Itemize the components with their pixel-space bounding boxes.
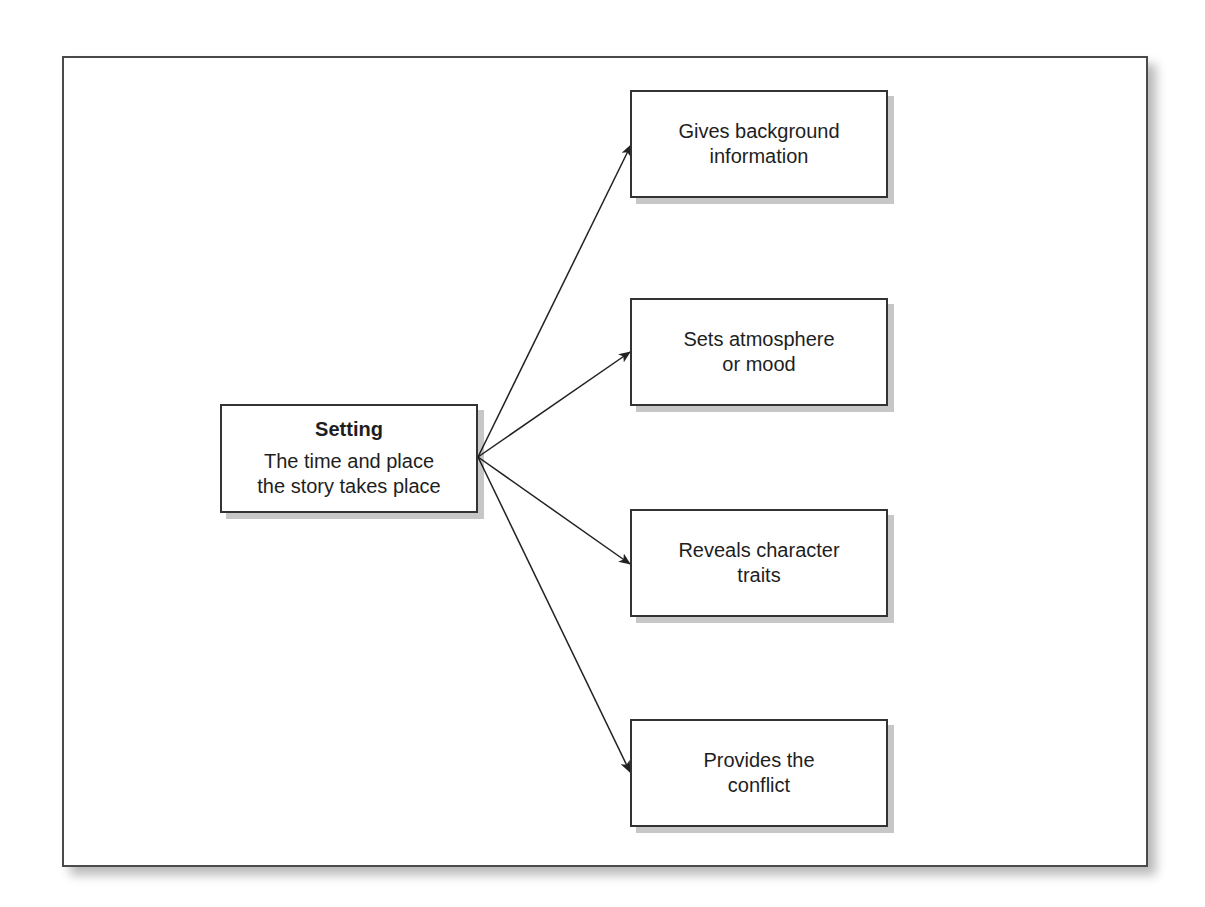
setting-description: The time and place the story takes place — [257, 449, 440, 499]
arrow-to-atmosphere — [478, 352, 630, 457]
setting-title: Setting — [315, 418, 383, 441]
node-label: Provides the conflict — [703, 748, 814, 798]
background-info-node: Gives background information — [630, 90, 888, 198]
node-label: Gives background information — [678, 119, 839, 169]
connector-arrows — [0, 0, 1205, 907]
conflict-node: Provides the conflict — [630, 719, 888, 827]
character-traits-node: Reveals character traits — [630, 509, 888, 617]
atmosphere-node: Sets atmosphere or mood — [630, 298, 888, 406]
setting-node: Setting The time and place the story tak… — [220, 404, 478, 513]
node-label: Sets atmosphere or mood — [683, 327, 834, 377]
node-label: Reveals character traits — [678, 538, 839, 588]
arrow-to-background — [478, 145, 631, 457]
arrow-to-character — [478, 457, 630, 564]
arrow-to-conflict — [478, 457, 630, 772]
